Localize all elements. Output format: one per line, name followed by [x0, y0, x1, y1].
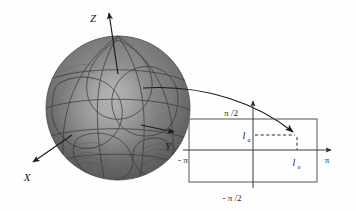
latitude-point-label: l a: [243, 130, 251, 143]
tick-label-minus-pi-over-2: - π /2: [222, 193, 241, 203]
longitude-symbol: l: [293, 157, 296, 168]
latitude-symbol: l: [243, 130, 246, 141]
z-axis-label: Z: [90, 12, 97, 24]
parameter-plane-group: [183, 101, 331, 188]
longitude-subscript: o: [298, 164, 301, 170]
sphere-group: [46, 36, 190, 180]
tick-label-minus-pi: - π: [178, 155, 188, 165]
figure-canvas: Z Y X π /2 - π /2 - π π l a l o: [0, 0, 356, 211]
longitude-point-label: l o: [293, 157, 301, 170]
latitude-subscript: a: [248, 137, 251, 143]
tick-label-pi-over-2: π /2: [224, 108, 238, 118]
x-axis-label: X: [23, 171, 32, 183]
tick-label-pi: π: [325, 155, 330, 165]
figure-root: Z Y X π /2 - π /2 - π π l a l o: [0, 0, 356, 211]
